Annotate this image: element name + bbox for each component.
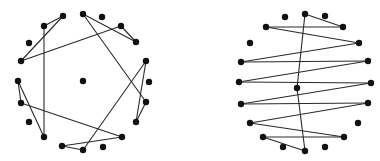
graph-node [356, 40, 362, 46]
graph-edge [297, 14, 305, 88]
graph-node [322, 144, 328, 150]
graph-node [282, 14, 288, 20]
graph-node [368, 80, 374, 86]
graph-node [365, 100, 371, 106]
graph-node [80, 147, 86, 153]
graph-node [133, 119, 139, 125]
graph-node [80, 11, 86, 17]
right-graph-edges [239, 14, 371, 151]
graph-figure [0, 0, 380, 161]
graph-node [238, 59, 244, 65]
graph-node [118, 23, 124, 29]
graph-node [238, 101, 244, 107]
graph-edge [250, 103, 368, 123]
graph-node [341, 134, 347, 140]
graph-node [41, 134, 47, 140]
graph-node [80, 78, 86, 84]
graph-edge [241, 61, 368, 62]
graph-node [143, 58, 149, 64]
graph-edge [297, 88, 305, 151]
graph-node [263, 24, 269, 30]
graph-node [15, 78, 21, 84]
graph-node [60, 13, 66, 19]
graph-node [302, 148, 308, 154]
graph-edge [44, 16, 63, 26]
graph-edge [121, 26, 136, 42]
graph-edge [239, 61, 368, 82]
graph-node [26, 40, 32, 46]
graph-node [247, 40, 253, 46]
graph-node [340, 24, 346, 30]
graph-node [280, 144, 286, 150]
graph-node [294, 85, 300, 91]
right-graph [236, 11, 374, 154]
graph-node [236, 79, 242, 85]
graph-node [18, 100, 24, 106]
graph-edge [21, 16, 63, 61]
graph-edge [83, 14, 136, 42]
graph-edge [241, 103, 368, 104]
graph-node [260, 134, 266, 140]
graph-edge [241, 83, 371, 104]
graph-node [365, 58, 371, 64]
graph-edge [239, 82, 371, 83]
graph-edge [83, 14, 146, 102]
graph-node [59, 143, 65, 149]
graph-node [119, 134, 125, 140]
graph-node [146, 79, 152, 85]
graph-edge [62, 146, 83, 150]
graph-node [100, 144, 106, 150]
graph-node [355, 120, 361, 126]
graph-node [143, 99, 149, 105]
graph-node [302, 11, 308, 17]
graph-node [133, 39, 139, 45]
graph-node [322, 13, 328, 19]
graph-edge [21, 26, 121, 61]
left-graph [15, 11, 152, 153]
graph-node [41, 23, 47, 29]
graph-node [247, 120, 253, 126]
graph-edge [83, 61, 146, 150]
graph-node [99, 14, 105, 20]
graph-node [18, 58, 24, 64]
graph-edge [62, 137, 122, 146]
graph-node [26, 119, 32, 125]
